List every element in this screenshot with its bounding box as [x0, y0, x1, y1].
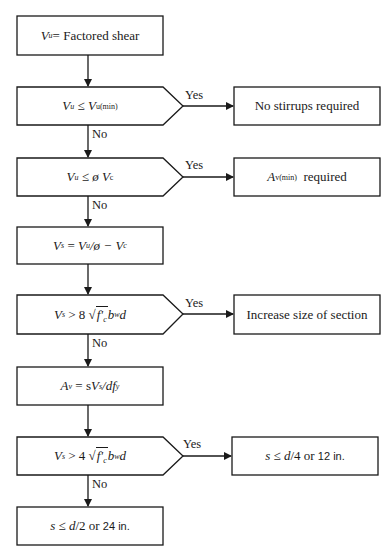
op: > 8 [65, 307, 89, 323]
op: ≤ ø [79, 169, 102, 185]
node-text: = Factored shear [53, 28, 140, 44]
sqrt-symbol: √ [89, 448, 96, 464]
op: > 4 [65, 448, 89, 464]
var: V [62, 98, 70, 114]
node-text: /4 or [290, 448, 317, 464]
sub: v(min) [275, 173, 297, 182]
sub: c [123, 241, 127, 250]
node-text: required [297, 169, 347, 185]
result-3-node: Increase size of section [234, 295, 380, 334]
start-node: Vu = Factored shear [17, 16, 163, 55]
op: = [64, 238, 78, 254]
var: V [53, 238, 61, 254]
edge-label-yes-4: Yes [183, 437, 201, 452]
edge-label-yes-3: Yes [185, 296, 203, 311]
node-text: /2 or [75, 518, 102, 534]
edge-label-no-3: No [92, 336, 107, 351]
var: d [120, 448, 127, 464]
op: ≤ [55, 518, 69, 534]
op: ≤ [74, 98, 88, 114]
sub: u(min) [96, 102, 118, 111]
sub: c [103, 456, 107, 465]
sub: c [110, 173, 114, 182]
var: V [54, 448, 62, 464]
node-text: No stirrups required [255, 98, 360, 114]
process-vs-node: Vs = Vu/ø − Vc [17, 227, 163, 264]
decision-3-node: Vs > 8 √f'cbwd [17, 295, 163, 334]
edge-label-no-2: No [92, 198, 107, 213]
value: 24 in. [103, 520, 130, 532]
edge-label-no-4: No [92, 477, 107, 492]
sqrt-content: f'c [96, 306, 108, 324]
var: V [78, 238, 86, 254]
op: ≤ [270, 448, 284, 464]
decision-4-node: Vs > 4 √f'cbwd [17, 437, 163, 475]
edge-label-yes-2: Yes [185, 158, 203, 173]
var: A [267, 169, 275, 185]
edge-label-yes-1: Yes [185, 88, 203, 103]
node-text: Increase size of section [247, 307, 368, 323]
process-av-node: Av = sVs/dfy [17, 367, 163, 405]
var: V [91, 378, 99, 394]
var: V [41, 28, 49, 44]
op: /ø − [90, 238, 115, 254]
var: d [120, 307, 127, 323]
op: = s [72, 378, 91, 394]
sqrt-symbol: √ [89, 307, 96, 323]
decision-2-node: Vu ≤ ø Vc [17, 158, 163, 196]
var: V [102, 169, 110, 185]
sub: c [103, 315, 107, 324]
sqrt-content: f'c [96, 447, 108, 465]
result-2-node: Av(min) required [234, 158, 380, 196]
sub: y [116, 382, 120, 391]
var: V [54, 307, 62, 323]
result-4-node: s ≤ d/4 or 12 in. [232, 437, 378, 475]
end-node: s ≤ d/2 or 24 in. [17, 507, 163, 545]
decision-1-node: Vu ≤ Vu(min) [17, 87, 163, 125]
value: 12 in. [318, 450, 345, 462]
var: V [67, 169, 75, 185]
var: A [61, 378, 69, 394]
var: V [88, 98, 96, 114]
op: /d [102, 378, 112, 394]
result-1-node: No stirrups required [234, 87, 380, 125]
var: V [115, 238, 123, 254]
edge-label-no-1: No [92, 127, 107, 142]
